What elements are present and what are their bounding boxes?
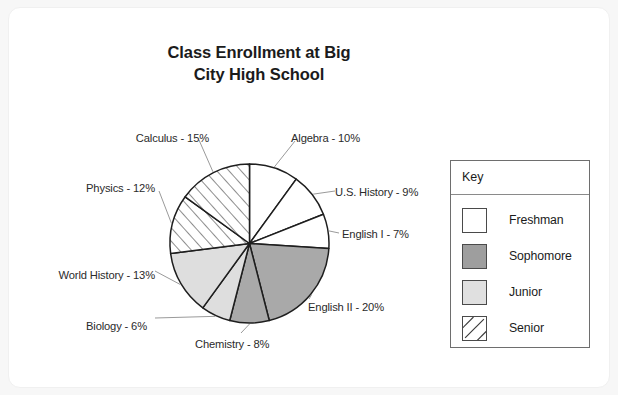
pie-slice-english-i (250, 214, 329, 248)
leader-line-english-i (329, 231, 339, 233)
slice-label-algebra: Algebra - 10% (291, 132, 360, 144)
chart-title-line-1: Class Enrollment at Big (168, 43, 351, 61)
leader-line-world-history (155, 271, 180, 284)
legend-label-freshman: Freshman (509, 213, 564, 227)
leader-line-u-s-history (313, 191, 335, 194)
legend-swatch-freshman (462, 208, 487, 233)
slice-label-us-history: U.S. History - 9% (335, 186, 418, 198)
legend-item-junior[interactable]: Junior (451, 274, 589, 310)
legend-swatch-sophomore (462, 244, 487, 269)
legend-title: Key (462, 170, 484, 184)
pie-slice-algebra (250, 164, 297, 244)
legend-item-freshman[interactable]: Freshman (451, 202, 589, 238)
leader-line-physics (159, 191, 172, 223)
legend-label-senior: Senior (509, 321, 544, 335)
slice-label-english-ii: English II - 20% (308, 301, 384, 313)
leader-line-english-ii (309, 295, 312, 299)
legend-label-sophomore: Sophomore (509, 249, 572, 263)
pie-slice-chemistry (230, 244, 270, 323)
legend-divider (451, 194, 589, 195)
legend-swatch-junior (462, 280, 487, 305)
page-title: Class Enrollment at Big City High School (99, 41, 419, 86)
pie-slice-calculus (185, 164, 249, 244)
slice-label-physics: Physics - 12% (29, 182, 155, 194)
slice-label-calculus: Calculus - 15% (59, 132, 209, 144)
pie-slice-group (170, 164, 329, 323)
pie-slice-u-s-history (250, 179, 324, 243)
chart-title-line-2: City High School (194, 65, 324, 83)
slice-label-english-i: English I - 7% (342, 228, 409, 240)
pie-slice-physics (170, 197, 249, 254)
chart-card: Class Enrollment at Big City High School… (8, 7, 610, 388)
slice-label-world-history: World History - 13% (0, 269, 155, 281)
leader-line-chemistry (241, 324, 250, 333)
pie-slice-world-history (171, 244, 250, 308)
slice-label-chemistry: Chemistry - 8% (195, 338, 269, 350)
leader-line-algebra (274, 141, 295, 167)
legend: Key FreshmanSophomoreJuniorSenior (450, 160, 590, 348)
leader-line-calculus (199, 140, 213, 172)
legend-swatch-senior (462, 316, 487, 341)
pie-slice-biology (203, 244, 250, 321)
slice-label-biology: Biology - 6% (37, 320, 147, 332)
leader-line-biology (155, 316, 215, 318)
legend-item-sophomore[interactable]: Sophomore (451, 238, 589, 274)
legend-items: FreshmanSophomoreJuniorSenior (451, 202, 589, 346)
legend-item-senior[interactable]: Senior (451, 310, 589, 346)
legend-label-junior: Junior (509, 285, 542, 299)
